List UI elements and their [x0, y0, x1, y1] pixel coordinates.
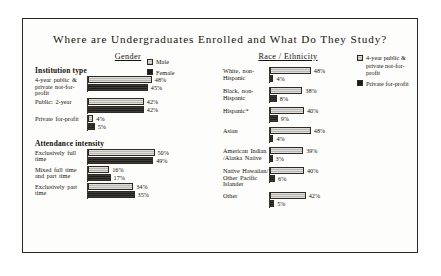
- bar-line: 3%: [270, 155, 355, 162]
- figure-frame: Where are Undergraduates Enrolled and Wh…: [22, 18, 418, 253]
- bar-line: 9%: [270, 115, 355, 122]
- chart-row: Black, non-Hispanic 38% 8%: [219, 87, 355, 103]
- bar-line: 49%: [88, 157, 221, 164]
- bar-value: 48%: [314, 67, 325, 74]
- category-label: Mixed full time and part time: [29, 166, 87, 180]
- chart-row: Exclusively full time 50% 49%: [29, 149, 221, 165]
- panel-gender-heading: Gender: [35, 52, 221, 61]
- bar-value: 4%: [276, 135, 284, 142]
- chart-attendance-intensity: Exclusively full time 50% 49% Mixed ful: [29, 149, 221, 199]
- bar-line: 5%: [270, 200, 355, 207]
- category-label: American Indian /Alaska Native: [219, 147, 269, 161]
- bar-male: [88, 115, 93, 122]
- legend-gender: Male Female: [147, 58, 175, 79]
- category-label: White, non-Hispanic: [219, 67, 269, 81]
- bar-for-profit: [270, 95, 277, 102]
- bar-group: 48% 4%: [269, 127, 355, 143]
- bar-group: 39% 3%: [269, 147, 355, 163]
- bar-value: 17%: [114, 174, 125, 181]
- chart-row: White, non-Hispanic 48% 4%: [219, 67, 355, 83]
- bar-group: 38% 8%: [269, 87, 355, 103]
- legend-swatch-icon: [357, 55, 363, 61]
- chart-row: Private for-profit 4% 5%: [29, 115, 221, 131]
- category-label: 4-year public & private not-for-profit: [29, 76, 87, 97]
- bar-value: 35%: [138, 191, 149, 198]
- chart-row: Asian 48% 4%: [219, 127, 355, 143]
- bar-value: 5%: [98, 123, 106, 130]
- bar-line: 4%: [270, 135, 355, 142]
- bar-value: 40%: [307, 167, 318, 174]
- group-title-attendance-intensity: Attendance intensity: [35, 139, 221, 148]
- bar-value: 8%: [280, 95, 288, 102]
- bar-value: 49%: [156, 157, 167, 164]
- bar-line: 39%: [270, 147, 355, 154]
- legend-swatch-icon: [147, 59, 153, 65]
- bar-line: 48%: [270, 127, 355, 134]
- legend-swatch-icon: [147, 69, 153, 75]
- bar-group: 40% 9%: [269, 107, 355, 123]
- category-label: Asian: [219, 127, 269, 135]
- bar-value: 3%: [276, 155, 284, 162]
- bar-for-profit: [270, 75, 273, 82]
- legend-race: 4-year public & private not-for-profit P…: [357, 54, 413, 90]
- bar-line: 42%: [270, 192, 355, 199]
- bar-group: 42% 42%: [87, 98, 221, 114]
- bar-male: [88, 98, 144, 105]
- bar-female: [88, 84, 148, 91]
- bar-value: 39%: [306, 147, 317, 154]
- bar-line: 42%: [88, 98, 221, 105]
- chart-row: Other 42% 5%: [219, 192, 355, 208]
- bar-value: 9%: [281, 115, 289, 122]
- bar-four-year: [270, 192, 306, 199]
- bar-group: 4% 5%: [87, 115, 221, 131]
- bar-male: [88, 76, 152, 83]
- bar-line: 8%: [270, 95, 355, 102]
- category-label: Native Hawaiian/ Other Pacific Islander: [219, 167, 269, 188]
- bar-line: 17%: [88, 174, 221, 181]
- bar-four-year: [270, 87, 302, 94]
- chart-row: Native Hawaiian/ Other Pacific Islander …: [219, 167, 355, 188]
- bar-male: [88, 183, 133, 190]
- bar-four-year: [270, 67, 311, 74]
- legend-item-for-profit: Private for-profit: [357, 80, 413, 88]
- group-title-institution-type: Institution type: [35, 66, 221, 75]
- category-label: Public: 2-year: [29, 98, 87, 106]
- bar-female: [88, 157, 153, 164]
- legend-label: Female: [156, 69, 175, 77]
- bar-value: 6%: [278, 175, 286, 182]
- bar-value: 42%: [309, 192, 320, 199]
- legend-item-female: Female: [147, 69, 175, 77]
- legend-swatch-icon: [357, 80, 363, 86]
- legend-item-male: Male: [147, 58, 175, 66]
- chart-institution-type: 4-year public & private not-for-profit 4…: [29, 76, 221, 131]
- category-label: Other: [219, 192, 269, 200]
- bar-female: [88, 123, 95, 130]
- bar-line: 40%: [270, 167, 355, 174]
- category-label: Hispanic*: [219, 107, 269, 115]
- bar-for-profit: [270, 200, 274, 207]
- chart-row: Hispanic* 40% 9%: [219, 107, 355, 123]
- panel-race-ethnicity: Race / Ethnicity White, non-Hispanic 48%…: [219, 52, 415, 252]
- bar-line: 16%: [88, 166, 221, 173]
- category-label: Exclusively full time: [29, 149, 87, 163]
- bar-value: 5%: [277, 200, 285, 207]
- bar-line: 4%: [270, 75, 355, 82]
- bar-four-year: [270, 147, 303, 154]
- bar-line: 40%: [270, 107, 355, 114]
- bar-value: 34%: [136, 183, 147, 190]
- bar-value: 16%: [112, 166, 123, 173]
- bar-group: 50% 49%: [87, 149, 221, 165]
- bar-female: [88, 174, 111, 181]
- bar-value: 4%: [276, 75, 284, 82]
- figure-title: Where are Undergraduates Enrolled and Wh…: [23, 33, 417, 45]
- chart-row: Exclusively part time 34% 35%: [29, 183, 221, 199]
- bar-four-year: [270, 127, 311, 134]
- bar-group: 34% 35%: [87, 183, 221, 199]
- bar-female: [88, 191, 135, 198]
- legend-label: 4-year public & private not-for-profit: [366, 54, 413, 77]
- bar-group: 40% 6%: [269, 167, 355, 183]
- bar-four-year: [270, 107, 304, 114]
- bar-for-profit: [270, 175, 275, 182]
- bar-group: 16% 17%: [87, 166, 221, 182]
- bar-value: 40%: [307, 107, 318, 114]
